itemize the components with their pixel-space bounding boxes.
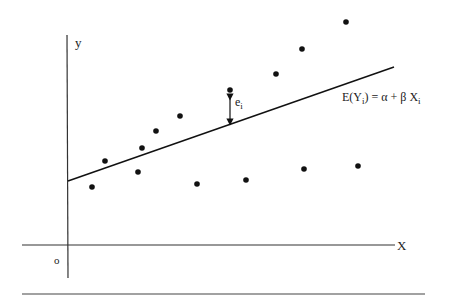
x-axis-label: X: [397, 238, 407, 253]
y-axis: [67, 35, 68, 278]
data-points: [89, 19, 361, 190]
data-point: [177, 113, 183, 119]
data-point: [243, 177, 249, 183]
data-point: [153, 128, 159, 134]
data-point: [343, 19, 349, 25]
data-point: [194, 181, 200, 187]
regression-equation: E(Yi) = α + β Xi: [342, 90, 421, 106]
regression-diagram: y X o ei E(Yi) = α + β Xi: [0, 0, 449, 301]
origin-label: o: [54, 254, 60, 266]
data-point: [135, 169, 141, 175]
data-point: [355, 163, 361, 169]
data-point: [299, 46, 305, 52]
data-point-highlighted: [227, 87, 233, 93]
data-point: [139, 145, 145, 151]
data-point: [273, 71, 279, 77]
y-axis-label: y: [75, 35, 82, 50]
data-point: [89, 184, 95, 190]
residual-label: ei: [235, 95, 243, 111]
data-point: [301, 166, 307, 172]
data-point: [102, 158, 108, 164]
regression-line: [68, 67, 394, 181]
